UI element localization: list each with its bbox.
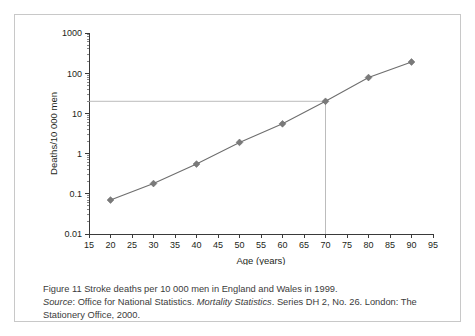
y-tick-label-0.1: 0.1 <box>69 189 82 199</box>
source-label: Source <box>43 297 72 307</box>
data-point-marker[interactable] <box>107 197 114 204</box>
data-point-marker[interactable] <box>365 74 372 81</box>
x-tick-label-90: 90 <box>406 240 416 250</box>
figure-caption: Figure 11 Stroke deaths per 10 000 men i… <box>43 283 443 323</box>
x-tick-label-50: 50 <box>234 240 244 250</box>
stroke-deaths-log-line-chart: 0.010.1110100100015202530354045505560657… <box>15 15 460 265</box>
data-point-marker[interactable] <box>279 120 286 127</box>
data-series-line <box>111 62 412 200</box>
x-tick-label-70: 70 <box>320 240 330 250</box>
x-tick-label-15: 15 <box>84 240 94 250</box>
y-tick-label-10: 10 <box>72 109 82 119</box>
x-tick-label-75: 75 <box>342 240 352 250</box>
y-tick-label-0.01: 0.01 <box>64 229 82 239</box>
figure-container: 0.010.1110100100015202530354045505560657… <box>14 14 461 322</box>
x-tick-label-95: 95 <box>428 240 438 250</box>
caption-title-line: Figure 11 Stroke deaths per 10 000 men i… <box>43 283 443 296</box>
x-axis-title: Age (years) <box>236 255 285 265</box>
x-tick-label-40: 40 <box>191 240 201 250</box>
data-point-marker[interactable] <box>322 98 329 105</box>
x-tick-label-35: 35 <box>170 240 180 250</box>
x-tick-label-60: 60 <box>277 240 287 250</box>
x-tick-label-65: 65 <box>299 240 309 250</box>
x-tick-label-80: 80 <box>363 240 373 250</box>
data-point-marker[interactable] <box>408 59 415 66</box>
y-tick-label-1: 1 <box>77 149 82 159</box>
source-publication-title: Mortality Statistics <box>197 297 272 307</box>
data-point-marker[interactable] <box>150 180 157 187</box>
x-tick-label-45: 45 <box>213 240 223 250</box>
y-tick-label-1000: 1000 <box>62 28 82 38</box>
data-point-marker[interactable] <box>193 161 200 168</box>
y-tick-label-100: 100 <box>67 69 82 79</box>
x-tick-label-25: 25 <box>127 240 137 250</box>
caption-source-line: Source: Office for National Statistics. … <box>43 296 443 322</box>
x-tick-label-20: 20 <box>105 240 115 250</box>
source-text-a: : Office for National Statistics. <box>72 297 196 307</box>
chart-plot-area: 0.010.1110100100015202530354045505560657… <box>15 15 460 265</box>
x-tick-label-85: 85 <box>385 240 395 250</box>
x-tick-label-30: 30 <box>148 240 158 250</box>
data-point-marker[interactable] <box>236 139 243 146</box>
x-tick-label-55: 55 <box>256 240 266 250</box>
y-axis-title: Deaths/10 000 men <box>48 92 59 175</box>
